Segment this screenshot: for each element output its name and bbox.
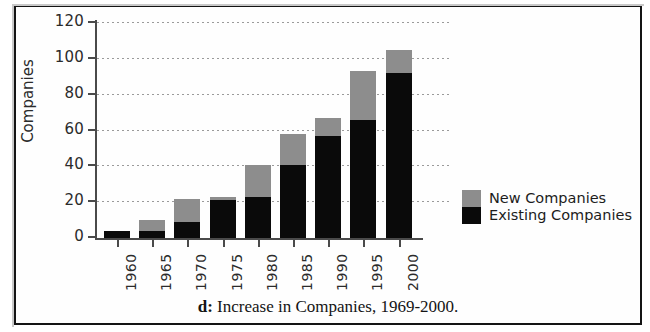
x-axis-tick-label: 1980 bbox=[264, 245, 280, 291]
x-axis-tick bbox=[117, 240, 119, 247]
bar-1985 bbox=[280, 20, 306, 238]
bar-1995 bbox=[350, 20, 376, 238]
legend-label-existing: Existing Companies bbox=[489, 208, 632, 223]
bar-1975 bbox=[210, 20, 236, 238]
caption-label: d: bbox=[198, 297, 213, 316]
bar-1990 bbox=[315, 20, 341, 238]
x-axis-tick bbox=[399, 240, 401, 247]
legend-label-new: New Companies bbox=[489, 191, 606, 206]
figure-panel: 020406080100120 Companies 19601965197019… bbox=[0, 0, 650, 332]
x-axis-tick-label: 1995 bbox=[369, 245, 385, 291]
x-axis-tick-label: 1965 bbox=[158, 245, 174, 291]
legend-item-new: New Companies bbox=[462, 190, 632, 207]
bar-segment-existing bbox=[315, 136, 341, 238]
x-axis-tick-label: 1985 bbox=[299, 245, 315, 291]
y-axis-tick-label: 120 bbox=[38, 14, 84, 29]
bar-segment-new bbox=[245, 165, 271, 197]
bar-segment-new bbox=[315, 118, 341, 136]
bar-1970 bbox=[174, 20, 200, 238]
legend-swatch-new bbox=[462, 190, 481, 207]
bar-segment-existing bbox=[139, 231, 165, 238]
bar-segment-new bbox=[174, 199, 200, 222]
x-axis-tick-label: 2000 bbox=[405, 245, 421, 291]
y-axis-tick-label: 20 bbox=[38, 193, 84, 208]
bar-segment-existing bbox=[245, 197, 271, 238]
bar-segment-existing bbox=[280, 165, 306, 238]
bar-1960 bbox=[104, 20, 130, 238]
bars-group bbox=[95, 20, 423, 238]
x-axis-tick-label: 1970 bbox=[193, 245, 209, 291]
bar-segment-new bbox=[350, 71, 376, 119]
y-axis-tick-label: 80 bbox=[38, 86, 84, 101]
y-axis-tick-label: 40 bbox=[38, 157, 84, 172]
x-axis-tick bbox=[328, 240, 330, 247]
x-axis-tick-label: 1975 bbox=[229, 245, 245, 291]
bar-segment-existing bbox=[386, 73, 412, 238]
y-axis-tick-label: 100 bbox=[38, 50, 84, 65]
x-axis-tick-label: 1990 bbox=[334, 245, 350, 291]
bar-segment-existing bbox=[350, 120, 376, 238]
bar-segment-new bbox=[139, 220, 165, 231]
legend-item-existing: Existing Companies bbox=[462, 207, 632, 224]
x-axis-tick bbox=[293, 240, 295, 247]
x-axis-tick bbox=[223, 240, 225, 247]
chart-legend: New CompaniesExisting Companies bbox=[462, 190, 632, 224]
y-axis-tick-label: 0 bbox=[38, 229, 84, 244]
x-axis-tick-label: 1960 bbox=[123, 245, 139, 291]
bar-segment-new bbox=[280, 134, 306, 164]
x-axis-tick bbox=[258, 240, 260, 247]
bar-segment-existing bbox=[104, 231, 130, 238]
figure-caption: d: Increase in Companies, 1969-2000. bbox=[14, 297, 642, 317]
bar-2000 bbox=[386, 20, 412, 238]
bar-segment-existing bbox=[210, 200, 236, 238]
chart-plot-area: 020406080100120 Companies 19601965197019… bbox=[0, 0, 650, 332]
x-axis-tick bbox=[363, 240, 365, 247]
x-axis-tick bbox=[152, 240, 154, 247]
y-axis-tick-label: 60 bbox=[38, 122, 84, 137]
x-axis-tick bbox=[187, 240, 189, 247]
bar-1980 bbox=[245, 20, 271, 238]
caption-text: Increase in Companies, 1969-2000. bbox=[213, 297, 459, 316]
bar-segment-existing bbox=[174, 222, 200, 238]
legend-swatch-existing bbox=[462, 207, 481, 224]
y-axis-title: Companies bbox=[19, 26, 37, 176]
bar-segment-new bbox=[386, 50, 412, 73]
bar-1965 bbox=[139, 20, 165, 238]
